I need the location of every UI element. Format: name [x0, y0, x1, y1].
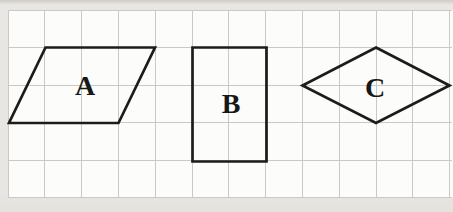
figure-canvas: ABC — [0, 0, 453, 212]
rectangle-b-label: B — [222, 88, 241, 119]
rhombus-c-label: C — [365, 72, 385, 103]
grid-shapes-diagram: ABC — [0, 0, 453, 212]
parallelogram-a-label: A — [75, 70, 96, 101]
